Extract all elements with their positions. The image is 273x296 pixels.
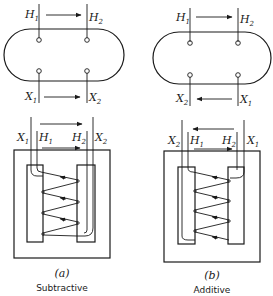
panel-b-core-view: X2 H1 H2 X1: [164, 120, 260, 262]
core-left-leg: [27, 165, 43, 242]
panel-b-caption: (b): [204, 269, 220, 282]
core-right-leg: [77, 165, 95, 242]
panel-b-additive: H1 H2 X2 X1 X2 H: [153, 8, 271, 295]
core-left-leg: [178, 167, 195, 244]
core-x1-label: X1: [246, 134, 259, 149]
tank-outline: [4, 29, 124, 81]
x1-label: X1: [24, 90, 37, 105]
panel-a-core-view: X1 H1 H2 X2: [14, 117, 110, 258]
x1-label: X1: [239, 93, 252, 108]
core-h2-label: H2: [71, 131, 87, 146]
panel-b-top-view: H1 H2 X2 X1: [153, 8, 271, 108]
panel-a-subtractive: H1 H2 X1 X2: [4, 4, 124, 293]
core-x2-label: X2: [94, 131, 108, 146]
panel-b-name: Additive: [194, 285, 231, 295]
x1-core-bend: [31, 170, 43, 176]
h2-bushing: [85, 38, 90, 43]
panel-a-top-view: H1 H2 X1 X2: [4, 4, 124, 106]
x1-core-bend: [230, 172, 244, 178]
x1-bushing: [37, 69, 42, 74]
core-x1-label: X1: [16, 131, 29, 146]
core-h2-label: H2: [221, 134, 237, 149]
h1-label: H1: [175, 11, 190, 26]
x2-core-bend: [182, 236, 195, 240]
core-right-leg: [228, 167, 244, 244]
tank-outline: [153, 32, 271, 84]
x1-bushing: [236, 73, 241, 78]
h1-label: H1: [24, 8, 39, 23]
panel-a-caption: (a): [54, 267, 69, 280]
winding-turns: [41, 172, 79, 236]
transformer-polarity-diagram: H1 H2 X1 X2: [0, 0, 273, 296]
x2-core-bend: [77, 228, 93, 236]
h1-core-bend: [37, 168, 41, 172]
h1-bushing: [37, 38, 42, 43]
h2-core-bend: [84, 230, 87, 233]
panel-a-name: Subtractive: [36, 283, 88, 293]
core-h1-label: H1: [38, 131, 53, 146]
h2-label: H2: [88, 11, 104, 26]
x2-bushing: [85, 69, 90, 74]
x2-label: X2: [175, 92, 189, 107]
winding-turns: [193, 172, 230, 240]
core-x2-label: X2: [167, 134, 181, 149]
core-h1-label: H1: [189, 134, 204, 149]
x2-label: X2: [88, 91, 102, 106]
h2-label: H2: [239, 13, 255, 28]
x2-bushing: [188, 73, 193, 78]
h1-core-bend: [188, 168, 193, 172]
